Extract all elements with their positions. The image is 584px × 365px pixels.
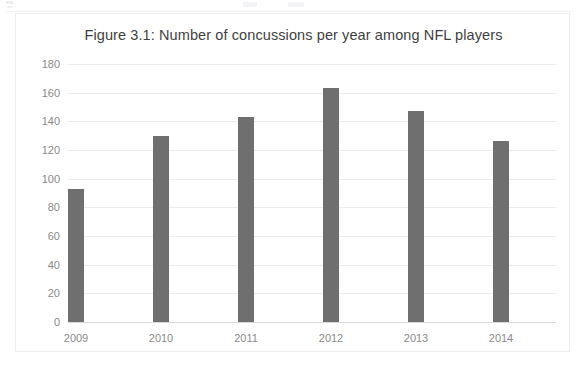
chart-title: Figure 3.1: Number of concussions per ye… xyxy=(16,27,571,43)
bar xyxy=(153,136,169,322)
bar xyxy=(493,141,509,322)
plot-area: 1801601401201008060402002009201020112012… xyxy=(68,64,571,322)
bar xyxy=(238,117,254,322)
scan-artifacts xyxy=(0,0,584,14)
scan-speck xyxy=(6,1,13,4)
y-axis-tick-label: 160 xyxy=(42,87,60,99)
scan-edge-line xyxy=(6,11,571,12)
gridline: 160 xyxy=(68,93,556,94)
x-axis-tick-label: 2012 xyxy=(319,332,343,344)
y-axis-tick-label: 180 xyxy=(42,58,60,70)
x-axis-tick-label: 2013 xyxy=(404,332,428,344)
x-axis-tick-label: 2011 xyxy=(234,332,258,344)
scan-speck xyxy=(288,2,304,7)
bar xyxy=(68,189,84,322)
y-axis-tick-label: 120 xyxy=(42,144,60,156)
x-axis-tick-label: 2010 xyxy=(149,332,173,344)
y-axis-tick-label: 100 xyxy=(42,173,60,185)
gridline: 140 xyxy=(68,121,556,122)
figure-frame: Figure 3.1: Number of concussions per ye… xyxy=(15,13,570,352)
x-axis-tick-label: 2009 xyxy=(64,332,88,344)
gridline: 80 xyxy=(68,207,556,208)
gridline: 120 xyxy=(68,150,556,151)
gridline: 60 xyxy=(68,236,556,237)
x-axis-tick-label: 2014 xyxy=(489,332,513,344)
gridline: 100 xyxy=(68,179,556,180)
bar xyxy=(323,88,339,322)
scan-speck xyxy=(7,6,12,8)
x-axis-line: 0 xyxy=(68,322,556,323)
y-axis-tick-label: 0 xyxy=(54,316,60,328)
gridline: 20 xyxy=(68,293,556,294)
y-axis-tick-label: 140 xyxy=(42,115,60,127)
gridline: 180 xyxy=(68,64,556,65)
y-axis-tick-label: 60 xyxy=(48,230,60,242)
scan-speck xyxy=(243,2,257,7)
y-axis-tick-label: 40 xyxy=(48,259,60,271)
bar xyxy=(408,111,424,322)
gridline: 40 xyxy=(68,265,556,266)
y-axis-tick-label: 80 xyxy=(48,201,60,213)
y-axis-tick-label: 20 xyxy=(48,287,60,299)
